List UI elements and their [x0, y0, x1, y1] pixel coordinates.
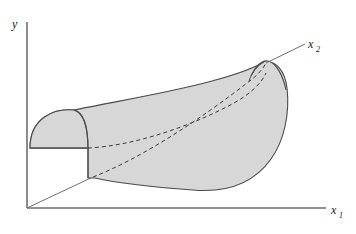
x2-leader-line: [266, 44, 305, 63]
x2-axis-line: [27, 176, 95, 208]
x1-axis-label: x: [330, 203, 337, 217]
figure-root: y x 1 x 2: [0, 0, 356, 234]
left-cap-arch: [30, 110, 88, 148]
y-axis-label: y: [11, 17, 18, 31]
x1-axis-subscript: 1: [339, 211, 343, 220]
x2-axis-subscript: 2: [316, 45, 320, 54]
surface-plot-svg: y x 1 x 2: [0, 0, 356, 234]
x2-axis-label: x: [307, 37, 314, 51]
